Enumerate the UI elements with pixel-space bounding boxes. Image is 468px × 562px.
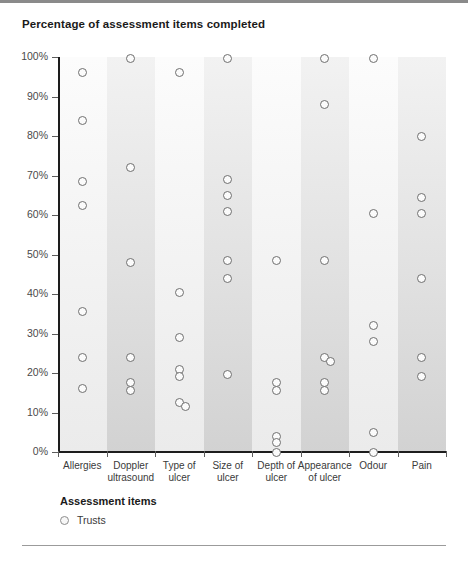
x-axis-tick: [398, 451, 399, 457]
plot-band: [204, 57, 253, 452]
x-axis-tick: [107, 451, 108, 457]
data-point-marker: [272, 256, 281, 265]
legend-item-label: Trusts: [77, 514, 106, 526]
data-point-marker: [272, 386, 281, 395]
data-point-marker: [223, 191, 232, 200]
data-point-marker: [78, 353, 87, 362]
y-axis-tick: [52, 57, 58, 58]
y-axis-tick: [52, 176, 58, 177]
legend: Assessment items Trusts: [60, 495, 157, 526]
y-axis-label: 70%: [8, 169, 48, 181]
x-axis-tick: [155, 451, 156, 457]
x-axis-tick: [301, 451, 302, 457]
y-axis-tick: [52, 255, 58, 256]
data-point-marker: [369, 448, 378, 457]
plot-band: [349, 57, 398, 452]
x-axis-label: Pain: [392, 460, 452, 472]
data-point-marker: [78, 384, 87, 393]
x-axis-tick: [349, 451, 350, 457]
data-point-marker: [417, 132, 426, 141]
plot-band: [155, 57, 204, 452]
data-point-marker: [78, 116, 87, 125]
y-axis-label: 90%: [8, 90, 48, 102]
top-divider: [0, 0, 468, 3]
y-axis-label: 100%: [8, 50, 48, 62]
y-axis-label: 30%: [8, 327, 48, 339]
legend-title: Assessment items: [60, 495, 157, 507]
data-point-marker: [369, 321, 378, 330]
data-point-marker: [369, 209, 378, 218]
legend-item-trusts: Trusts: [60, 514, 157, 526]
data-point-marker: [272, 448, 281, 457]
y-axis-label: 0%: [8, 445, 48, 457]
data-point-marker: [369, 428, 378, 437]
chart-page: Percentage of assessment items completed…: [0, 0, 468, 562]
data-point-marker: [175, 288, 184, 297]
data-point-marker: [181, 402, 190, 411]
data-point-marker: [417, 193, 426, 202]
y-axis-tick: [52, 97, 58, 98]
data-point-marker: [417, 209, 426, 218]
circle-marker-icon: [60, 516, 69, 525]
x-axis-tick: [446, 451, 447, 457]
data-point-marker: [223, 207, 232, 216]
plot-area: [58, 57, 446, 452]
data-point-marker: [326, 357, 335, 366]
data-point-marker: [175, 68, 184, 77]
data-point-marker: [417, 274, 426, 283]
data-point-marker: [417, 353, 426, 362]
x-axis-tick: [204, 451, 205, 457]
data-point-marker: [78, 201, 87, 210]
data-point-marker: [78, 68, 87, 77]
y-axis-tick: [52, 215, 58, 216]
y-axis-tick: [52, 294, 58, 295]
y-axis-label: 50%: [8, 248, 48, 260]
y-axis-tick: [52, 136, 58, 137]
x-axis-tick: [252, 451, 253, 457]
data-point-marker: [78, 307, 87, 316]
data-point-marker: [78, 177, 87, 186]
y-axis-label: 80%: [8, 129, 48, 141]
data-point-marker: [272, 438, 281, 447]
data-point-marker: [369, 337, 378, 346]
y-axis-label: 10%: [8, 406, 48, 418]
data-point-marker: [126, 353, 135, 362]
y-axis-label: 20%: [8, 366, 48, 378]
data-point-marker: [223, 274, 232, 283]
chart-title: Percentage of assessment items completed: [22, 18, 265, 30]
y-axis-label: 60%: [8, 208, 48, 220]
y-axis-label: 40%: [8, 287, 48, 299]
x-axis-tick: [58, 451, 59, 457]
plot-band: [398, 57, 447, 452]
y-axis-tick: [52, 413, 58, 414]
y-axis-tick: [52, 334, 58, 335]
data-point-marker: [175, 333, 184, 342]
y-axis-line: [58, 57, 60, 452]
y-axis-tick: [52, 373, 58, 374]
bottom-divider: [22, 545, 446, 546]
